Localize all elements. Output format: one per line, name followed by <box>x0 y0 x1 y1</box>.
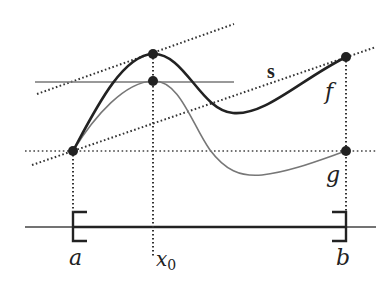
label-x0: x0 <box>156 247 176 273</box>
label-x0-main: x <box>156 247 167 271</box>
point-g-b <box>341 146 351 156</box>
label-a: a <box>69 245 82 270</box>
point-f-b <box>341 52 351 62</box>
curve-g <box>73 81 346 175</box>
point-g-x0 <box>148 76 158 86</box>
curve-f <box>73 54 346 151</box>
diagram: s f g a x0 b <box>0 0 392 285</box>
label-f: f <box>323 79 337 104</box>
label-b: b <box>336 245 350 270</box>
label-s: s <box>267 60 275 82</box>
label-x0-sub: 0 <box>167 257 176 273</box>
point-a <box>68 146 78 156</box>
label-g: g <box>326 162 340 187</box>
point-f-x0 <box>148 49 158 59</box>
secant-line-s <box>32 47 376 165</box>
